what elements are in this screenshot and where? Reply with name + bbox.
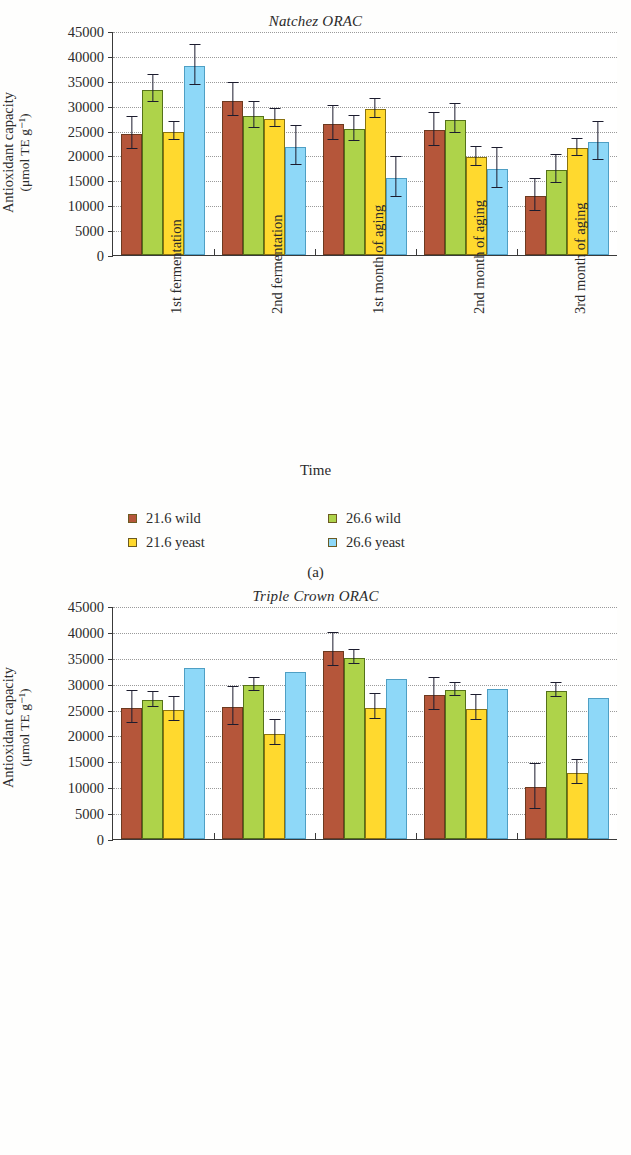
bar[interactable] — [323, 651, 344, 839]
legend-swatch-icon — [328, 514, 337, 523]
bar-group — [415, 607, 516, 839]
bar[interactable] — [365, 708, 386, 840]
bar-groups — [113, 32, 617, 255]
error-bar-cap-upper — [530, 763, 541, 764]
x-axis-separator — [214, 833, 215, 839]
y-tick-label: 5000 — [75, 223, 104, 240]
bar[interactable] — [264, 734, 285, 839]
bar[interactable] — [546, 170, 567, 255]
bar[interactable] — [243, 685, 264, 839]
error-bar-cap-upper — [572, 138, 583, 139]
bar[interactable] — [121, 708, 142, 839]
bar[interactable] — [487, 169, 508, 255]
error-bar — [295, 126, 296, 166]
error-bar-cap-upper — [429, 112, 440, 113]
bar-group — [113, 607, 214, 839]
y-axis-ticks-a: 0500010000150002000025000300003500040000… — [34, 32, 108, 256]
error-bar — [333, 106, 334, 140]
bar[interactable] — [184, 668, 205, 839]
error-bar — [455, 104, 456, 133]
error-bar-cap-lower — [551, 182, 562, 183]
bar[interactable] — [588, 698, 609, 839]
bar[interactable] — [466, 709, 487, 839]
bar[interactable] — [344, 658, 365, 839]
y-tick-label: 35000 — [68, 73, 104, 90]
bar[interactable] — [424, 130, 445, 255]
error-bar-cap-upper — [269, 108, 280, 109]
bar[interactable] — [588, 142, 609, 255]
legend-item[interactable]: 21.6 yeast — [128, 530, 328, 554]
error-bar-cap-lower — [471, 165, 482, 166]
error-bar-cap-upper — [429, 677, 440, 678]
y-tick-label: 20000 — [68, 148, 104, 165]
y-tick-label: 25000 — [68, 702, 104, 719]
legend-item[interactable]: 26.6 yeast — [328, 530, 528, 554]
error-bar — [476, 695, 477, 720]
bar[interactable] — [142, 700, 163, 839]
error-bar-cap-lower — [429, 709, 440, 710]
error-bar-cap-lower — [593, 159, 604, 160]
bar[interactable] — [546, 691, 567, 839]
legend-item[interactable]: 21.6 wild — [128, 506, 328, 530]
error-bar-cap-upper — [168, 696, 179, 697]
error-bar-cap-upper — [290, 125, 301, 126]
x-category-text: 1st month of aging — [370, 205, 387, 314]
bar[interactable] — [142, 90, 163, 255]
y-tick-label: 45000 — [68, 599, 104, 616]
bar[interactable] — [285, 672, 306, 839]
error-bar — [131, 117, 132, 149]
legend-swatch-icon — [128, 514, 137, 523]
y-tick-label: 10000 — [68, 198, 104, 215]
error-bar-cap-upper — [471, 694, 482, 695]
plot-canvas-b — [112, 607, 617, 840]
error-bar — [434, 678, 435, 710]
bar-group — [315, 32, 416, 255]
y-tick-label: 10000 — [68, 780, 104, 797]
legend-label: 26.6 yeast — [346, 534, 405, 551]
bar[interactable] — [222, 101, 243, 255]
y-tick-label: 30000 — [68, 98, 104, 115]
bar[interactable] — [525, 196, 546, 255]
error-bar-cap-upper — [530, 178, 541, 179]
y-tick-label: 0 — [97, 248, 104, 265]
x-category-label: 2nd fermentation — [213, 310, 314, 470]
bar[interactable] — [243, 116, 264, 255]
x-axis-separator — [416, 249, 417, 255]
bar[interactable] — [323, 124, 344, 255]
bar[interactable] — [525, 787, 546, 839]
y-tick-label: 0 — [97, 832, 104, 849]
error-bar-cap-lower — [328, 139, 339, 140]
error-bar-cap-upper — [227, 686, 238, 687]
error-bar-cap-lower — [168, 720, 179, 721]
bar[interactable] — [386, 679, 407, 840]
bar[interactable] — [163, 710, 184, 839]
x-category-text: 3rd month of aging — [572, 202, 589, 314]
error-bar-cap-upper — [126, 690, 137, 691]
bar[interactable] — [445, 120, 466, 255]
error-bar-cap-lower — [370, 718, 381, 719]
y-axis-label-line1-a: Antioxidant capacity — [1, 91, 17, 212]
error-bar-cap-lower — [471, 719, 482, 720]
legend-swatch-icon — [328, 538, 337, 547]
bar[interactable] — [386, 178, 407, 255]
error-bar-cap-upper — [168, 121, 179, 122]
error-bar-cap-upper — [349, 649, 360, 650]
error-bar-cap-upper — [450, 103, 461, 104]
bar[interactable] — [184, 66, 205, 255]
bar[interactable] — [222, 707, 243, 839]
y-tick-label: 5000 — [75, 806, 104, 823]
error-bar-cap-upper — [328, 632, 339, 633]
bar[interactable] — [285, 147, 306, 256]
error-bar-cap-upper — [572, 759, 583, 760]
legend-label: 21.6 yeast — [146, 534, 205, 551]
error-bar — [274, 720, 275, 745]
bar[interactable] — [424, 695, 445, 839]
bar[interactable] — [567, 773, 588, 839]
legend-item[interactable]: 26.6 wild — [328, 506, 528, 530]
error-bar — [152, 75, 153, 102]
bar[interactable] — [487, 689, 508, 839]
error-bar-cap-lower — [492, 187, 503, 188]
bar[interactable] — [121, 134, 142, 255]
bar[interactable] — [344, 129, 365, 255]
bar[interactable] — [445, 690, 466, 839]
